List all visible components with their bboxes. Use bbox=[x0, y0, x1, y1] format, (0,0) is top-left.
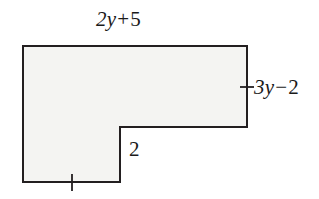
top-label-coefficient-variable: 2y bbox=[96, 7, 116, 31]
geometry-figure-canvas bbox=[0, 0, 319, 199]
right-side-length-label: 3y−2 bbox=[254, 77, 299, 98]
right-label-operator: − bbox=[274, 75, 288, 99]
top-side-length-label: 2y+5 bbox=[96, 9, 141, 30]
top-label-constant: 5 bbox=[130, 7, 141, 31]
l-shape-polygon bbox=[23, 46, 247, 182]
right-label-coefficient-variable: 3y bbox=[254, 75, 274, 99]
right-label-constant: 2 bbox=[288, 75, 299, 99]
top-label-operator: + bbox=[116, 7, 130, 31]
notch-side-length-label: 2 bbox=[129, 139, 140, 160]
